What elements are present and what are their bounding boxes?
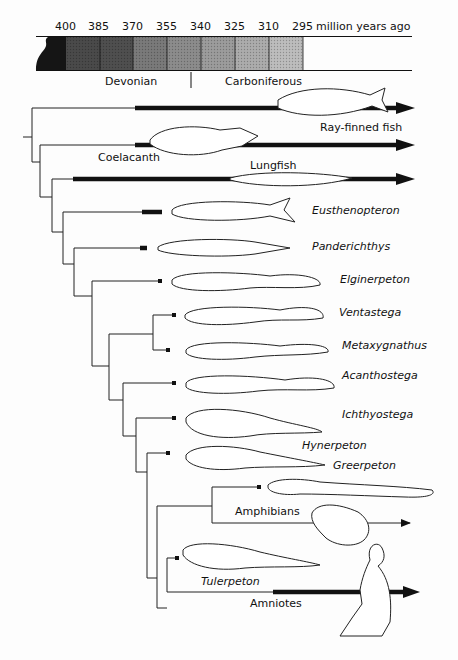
taxon-ray-finned-fish: Ray-finned fish: [320, 122, 402, 134]
taxon-acanthostega: Acanthostega: [342, 370, 418, 382]
elginerpeton-illustration: [172, 273, 320, 291]
eusthenopteron-illustration: [172, 198, 295, 222]
panderichthys-illustration: [158, 239, 290, 256]
coelacanth-illustration: [150, 127, 258, 155]
taxon-panderichthys: Panderichthys: [312, 241, 390, 253]
tick-310: 310: [258, 20, 279, 33]
taxon-lungfish: Lungfish: [250, 160, 297, 172]
acanthostega-illustration: [186, 376, 334, 393]
taxon-tulerpeton: Tulerpeton: [201, 576, 260, 588]
timescale-bar: [36, 37, 412, 89]
taxon-metaxygnathus: Metaxygnathus: [342, 340, 427, 352]
taxon-eusthenopteron: Eusthenopteron: [312, 205, 400, 217]
ichthyostega-illustration: [186, 409, 322, 437]
tick-370: 370: [122, 20, 143, 33]
taxon-coelacanth: Coelacanth: [98, 152, 160, 164]
ventastega-illustration: [185, 307, 323, 324]
tick-295: 295: [292, 20, 313, 33]
taxon-elginerpeton: Elginerpeton: [340, 274, 410, 286]
taxon-greerpeton: Greerpeton: [333, 460, 396, 472]
taxon-hynerpeton: Hynerpeton: [302, 440, 367, 452]
greerpeton-illustration: [268, 479, 433, 497]
timescale-unit: million years ago: [316, 20, 410, 33]
tulerpeton-illustration: [183, 544, 320, 569]
frog-illustration: [312, 505, 369, 545]
taxon-ichthyostega: Ichthyostega: [342, 409, 413, 421]
tick-400: 400: [55, 20, 76, 33]
lungfish-illustration: [230, 173, 352, 186]
taxon-amniotes: Amniotes: [250, 598, 302, 610]
tick-340: 340: [190, 20, 211, 33]
tick-325: 325: [224, 20, 245, 33]
period-devonian: Devonian: [105, 76, 157, 88]
phylogeny-diagram: [0, 0, 458, 660]
ray-finned-fish-illustration: [278, 88, 388, 115]
metaxygnathus-illustration: [186, 343, 328, 360]
tick-385: 385: [88, 20, 109, 33]
taxon-amphibians: Amphibians: [235, 506, 300, 518]
tick-355: 355: [156, 20, 177, 33]
taxon-ventastega: Ventastega: [339, 307, 401, 319]
period-carboniferous: Carboniferous: [225, 76, 302, 88]
